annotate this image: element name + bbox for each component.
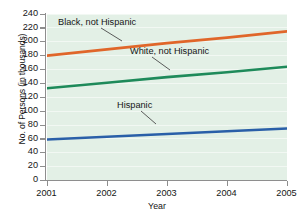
x-axis-tick-label: 2003: [147, 188, 187, 198]
y-axis-tick-mark: [40, 69, 45, 70]
x-axis-title: Year: [148, 201, 166, 211]
y-axis-tick-label: 220: [14, 23, 38, 32]
y-axis-tick-mark: [40, 166, 45, 167]
y-axis-tick-mark: [40, 83, 45, 84]
x-axis-tick-mark: [47, 181, 48, 186]
annotation-black-not-hispanic: Black, not Hispanic: [58, 17, 136, 27]
x-axis-tick-mark: [167, 181, 168, 186]
x-axis-title-wrap: Year: [0, 201, 300, 211]
x-axis-tick-label: 2002: [87, 188, 127, 198]
y-axis-tick-label: 0: [14, 175, 38, 184]
y-axis-tick-mark: [40, 41, 45, 42]
y-axis-tick-mark: [40, 125, 45, 126]
y-axis-tick-label: 180: [14, 50, 38, 59]
y-axis-tick-mark: [40, 97, 45, 98]
y-axis-tick-label: 120: [14, 92, 38, 101]
y-axis-tick-mark: [40, 111, 45, 112]
line-chart: No. of Persons (in thousands) 2402202001…: [0, 0, 300, 215]
y-axis-tick-mark: [40, 55, 45, 56]
series-lines: [47, 14, 287, 181]
y-axis-tick-label: 140: [14, 78, 38, 87]
y-axis-tick-label: 40: [14, 147, 38, 156]
y-axis-tick-label: 240: [14, 9, 38, 18]
x-axis-tick-label: 2001: [27, 188, 67, 198]
y-axis-tick-label: 60: [14, 134, 38, 143]
y-axis-tick-label: 100: [14, 106, 38, 115]
y-axis-tick-label: 200: [14, 36, 38, 45]
y-axis-tick-label: 20: [14, 161, 38, 170]
plot-area: [47, 14, 287, 181]
y-axis-tick-label: 160: [14, 64, 38, 73]
y-axis-tick-mark: [40, 180, 45, 181]
y-axis-tick-mark: [40, 27, 45, 28]
annotation-hispanic: Hispanic: [117, 100, 152, 110]
y-axis-tick-mark: [40, 14, 45, 15]
x-axis-tick-mark: [107, 181, 108, 186]
y-axis-tick-label: 80: [14, 120, 38, 129]
y-axis-tick-labels: 240220200180160140120100806040200: [14, 0, 38, 215]
x-axis-tick-label: 2004: [207, 188, 247, 198]
series-line: [47, 66, 287, 88]
x-axis-tick-mark: [227, 181, 228, 186]
annotation-white-not-hispanic: White, not Hispanic: [130, 46, 209, 56]
x-axis-tick-label: 2005: [267, 188, 301, 198]
y-axis-tick-mark: [40, 152, 45, 153]
x-axis-tick-mark: [287, 181, 288, 186]
y-axis-tick-mark: [40, 138, 45, 139]
series-line: [47, 128, 287, 139]
